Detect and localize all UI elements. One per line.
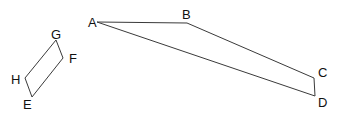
diagram-canvas: A B C D G F E H bbox=[0, 0, 339, 118]
vertex-label-e: E bbox=[23, 97, 32, 112]
diagram-svg: A B C D G F E H bbox=[0, 0, 339, 118]
vertex-label-a: A bbox=[88, 15, 97, 30]
vertex-label-d: D bbox=[318, 95, 327, 110]
parallelogram-efgh bbox=[25, 40, 63, 97]
vertex-label-c: C bbox=[318, 65, 327, 80]
vertex-label-h: H bbox=[11, 72, 20, 87]
quadrilateral-abcd bbox=[97, 22, 315, 96]
vertex-label-g: G bbox=[51, 27, 61, 42]
vertex-label-b: B bbox=[182, 7, 191, 22]
vertex-label-f: F bbox=[69, 51, 77, 66]
